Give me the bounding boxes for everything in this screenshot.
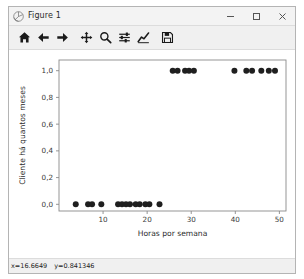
data-point	[258, 68, 264, 74]
arrow-right-icon	[56, 31, 69, 44]
figure-window: Figure 1	[8, 6, 296, 274]
data-point	[175, 68, 181, 74]
home-icon	[18, 31, 31, 44]
home-button[interactable]	[15, 28, 34, 47]
x-tick-label: 40	[231, 215, 241, 224]
x-tick-label: 30	[187, 215, 197, 224]
data-point	[191, 68, 197, 74]
back-button[interactable]	[34, 28, 53, 47]
y-tick-label: 0,2	[42, 173, 53, 182]
window-titlebar[interactable]: Figure 1	[9, 7, 295, 26]
maximize-button[interactable]	[243, 7, 269, 26]
window-title: Figure 1	[28, 12, 61, 20]
move-arrows-icon	[80, 31, 93, 44]
floppy-disk-icon	[161, 31, 174, 44]
data-point	[146, 201, 152, 207]
y-tick-label: 0,6	[42, 120, 54, 129]
data-point	[249, 68, 255, 74]
close-button[interactable]	[269, 7, 295, 26]
coordinate-statusbar: x=16.6649 y=0.841346	[9, 258, 295, 273]
magnifier-icon	[99, 31, 112, 44]
matplotlib-icon	[13, 11, 24, 22]
data-point	[127, 201, 133, 207]
y-tick-label: 1,0	[42, 66, 54, 75]
data-point	[98, 201, 104, 207]
y-tick-label: 0,8	[42, 93, 54, 102]
maximize-icon	[251, 11, 262, 22]
data-point	[266, 68, 272, 74]
x-axis-label: Horas por semana	[138, 229, 208, 238]
save-button[interactable]	[158, 28, 177, 47]
figure-toolbar	[9, 26, 295, 50]
window-controls	[217, 7, 295, 26]
x-tick-label: 10	[98, 215, 108, 224]
data-point	[137, 201, 143, 207]
desktop-backdrop: Figure 1	[0, 0, 304, 279]
x-tick-label: 50	[275, 215, 285, 224]
forward-button[interactable]	[53, 28, 72, 47]
zoom-button[interactable]	[96, 28, 115, 47]
data-point	[156, 201, 162, 207]
y-tick-label: 0,4	[42, 146, 54, 155]
edit-curves-button[interactable]	[134, 28, 153, 47]
line-chart-icon	[137, 31, 150, 44]
data-point	[73, 201, 79, 207]
coordinate-y-readout: y=0.841346	[54, 263, 94, 270]
x-tick-label: 20	[143, 215, 153, 224]
sliders-icon	[118, 31, 131, 44]
data-point	[272, 68, 278, 74]
close-icon	[277, 11, 288, 22]
scatter-plot: 10203040500,00,20,40,60,81,0Horas por se…	[9, 50, 295, 244]
figure-canvas[interactable]: 10203040500,00,20,40,60,81,0Horas por se…	[9, 50, 295, 258]
coordinate-x-readout: x=16.6649	[11, 263, 47, 270]
arrow-left-icon	[37, 31, 50, 44]
minimize-icon	[225, 11, 236, 22]
y-tick-label: 0,0	[42, 200, 54, 209]
minimize-button[interactable]	[217, 7, 243, 26]
pan-button[interactable]	[77, 28, 96, 47]
data-point	[243, 68, 249, 74]
configure-subplots-button[interactable]	[115, 28, 134, 47]
y-axis-label: Cliente há quantos meses	[18, 86, 27, 185]
data-point	[89, 201, 95, 207]
data-point	[231, 68, 237, 74]
